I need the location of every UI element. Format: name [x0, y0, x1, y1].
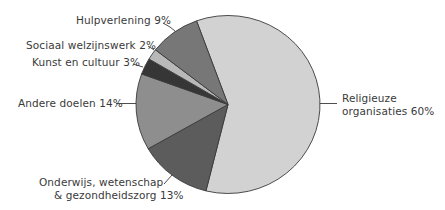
label-onderwijs: Onderwijs, wetenschap & gezondheidszorg … — [39, 176, 184, 202]
label-sociaal-welzijnswerk: Sociaal welzijnswerk 2% — [26, 39, 156, 52]
label-andere-doelen: Andere doelen 14% — [18, 97, 123, 110]
label-religieuze-line1: Religieuze — [342, 92, 434, 105]
label-religieuze-line2: organisaties 60% — [342, 105, 434, 118]
pie-slices — [136, 16, 320, 194]
label-onderwijs-line2: & gezondheidszorg 13% — [39, 189, 184, 202]
pie-chart: Hulpverlening 9% Sociaal welzijnswerk 2%… — [0, 0, 445, 210]
label-onderwijs-line1: Onderwijs, wetenschap — [39, 176, 163, 188]
label-kunst-en-cultuur: Kunst en cultuur 3% — [32, 56, 140, 69]
label-religieuze-organisaties: Religieuze organisaties 60% — [342, 92, 434, 118]
label-hulpverlening: Hulpverlening 9% — [76, 14, 171, 27]
